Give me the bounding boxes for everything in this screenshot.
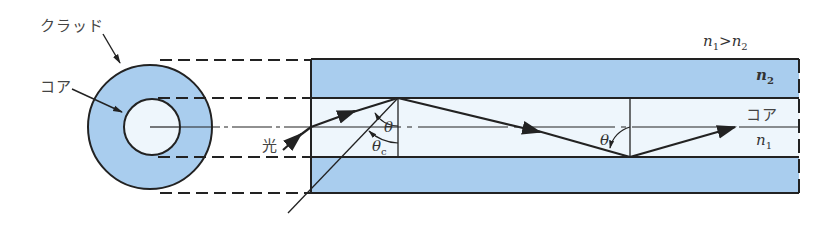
n2-label: n2	[756, 66, 774, 86]
condition-n1: n	[703, 32, 713, 50]
n1-symbol: n	[756, 131, 766, 149]
condition-n2: n	[732, 32, 742, 50]
n2-subscript: 2	[767, 75, 774, 86]
refractive-index-condition: n1>n2	[703, 32, 748, 52]
theta-c-subscript: c	[381, 146, 387, 157]
condition-operator: >	[719, 32, 732, 50]
n1-subscript: 1	[766, 140, 772, 151]
n2-symbol: n	[756, 66, 767, 84]
condition-n2-sub: 2	[741, 41, 747, 52]
theta-c-symbol: θ	[372, 137, 381, 155]
cladding-top	[311, 59, 799, 98]
core-label-side: コア	[746, 103, 778, 124]
light-label: 光	[262, 134, 278, 155]
theta-label-2: θ	[600, 131, 609, 149]
core-label-cross: コア	[40, 75, 72, 96]
theta-c-label: θc	[372, 137, 387, 157]
cladding-bottom	[311, 157, 799, 193]
cladding-label: クラッド	[40, 14, 104, 35]
theta-label: θ	[384, 118, 393, 136]
n1-label: n1	[756, 131, 772, 151]
